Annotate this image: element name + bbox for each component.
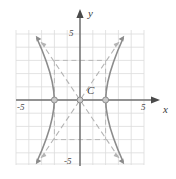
center-marker (77, 97, 83, 103)
vertex-left-marker (51, 97, 57, 103)
x-axis-arrow (151, 96, 160, 103)
x-tick-negative-5: -5 (17, 103, 25, 112)
center-point-label: C (87, 85, 94, 96)
left-branch-upper (37, 39, 54, 101)
y-axis-arrow (76, 9, 83, 18)
y-tick-negative-5: -5 (64, 157, 72, 166)
hyperbola-figure: y x 5 -5 -5 5 C (0, 0, 176, 179)
vertex-right-marker (103, 97, 109, 103)
y-axis-label: y (88, 8, 93, 19)
right-branch-upper (106, 39, 123, 101)
left-branch-lower (37, 100, 54, 162)
y-tick-positive-5: 5 (69, 29, 74, 38)
right-branch-lower (106, 100, 123, 162)
x-tick-positive-5: 5 (141, 103, 146, 112)
x-axis-label: x (163, 104, 168, 115)
